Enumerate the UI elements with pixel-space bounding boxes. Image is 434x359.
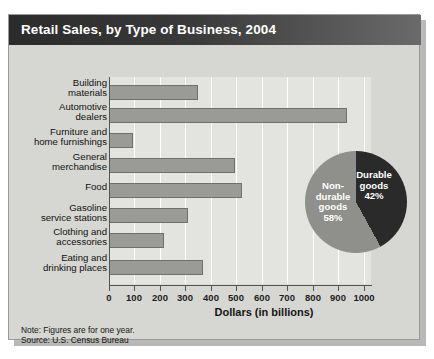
bar-clothing-accessories <box>109 233 164 248</box>
xtick-500 <box>236 286 237 291</box>
x-axis-line <box>109 285 372 286</box>
pie-nondurable-line1: Non- <box>309 181 357 192</box>
footnote-note: Note: Figures are for one year. <box>21 325 135 335</box>
xtick-400 <box>211 286 212 291</box>
chart-page: Retail Sales, by Type of Business, 2004 <box>0 0 434 359</box>
y-axis-line <box>109 77 110 286</box>
xtick-700 <box>287 286 288 291</box>
category-label-gasoline-2: service stations <box>15 213 107 223</box>
bar-automotive-dealers <box>109 108 347 123</box>
bar-furniture-home <box>109 133 133 148</box>
x-axis-title: Dollars (in billions) <box>149 306 379 318</box>
xtick-200 <box>160 286 161 291</box>
xtick-100 <box>134 286 135 291</box>
category-label-furniture-2: home furnishings <box>15 137 107 147</box>
category-label-building-materials-2: materials <box>15 88 107 98</box>
xtick-600 <box>262 286 263 291</box>
bar-food <box>109 183 242 198</box>
category-label-food: Food <box>15 182 107 192</box>
category-label-automotive-2: dealers <box>15 112 107 122</box>
category-label-general-2: merchandise <box>15 162 107 172</box>
category-label-eating-2: drinking places <box>15 263 107 273</box>
page-title: Retail Sales, by Type of Business, 2004 <box>21 22 276 37</box>
category-labels: Building materials Automotive dealers Fu… <box>15 77 107 284</box>
xtick-1000 <box>364 286 365 291</box>
pie-durable-line1: Durable <box>347 170 401 181</box>
xticklabel-1000: 1000 <box>344 292 384 303</box>
pie-nondurable-value: 58% <box>309 213 357 224</box>
bar-building-materials <box>109 85 198 100</box>
bar-general-merchandise <box>109 158 235 173</box>
pie-slice-nondurable-label: Non- durable goods 58% <box>309 181 357 223</box>
chart-title-bar: Retail Sales, by Type of Business, 2004 <box>9 15 421 45</box>
bar-eating-drinking <box>109 260 203 275</box>
xtick-0 <box>109 286 110 291</box>
footnote-source: Source: U.S. Census Bureau <box>21 335 129 345</box>
xtick-800 <box>313 286 314 291</box>
xtick-900 <box>338 286 339 291</box>
xtick-300 <box>185 286 186 291</box>
category-label-clothing-2: accessories <box>15 237 107 247</box>
chart-panel: Retail Sales, by Type of Business, 2004 <box>8 14 420 340</box>
bar-gasoline-stations <box>109 208 188 223</box>
